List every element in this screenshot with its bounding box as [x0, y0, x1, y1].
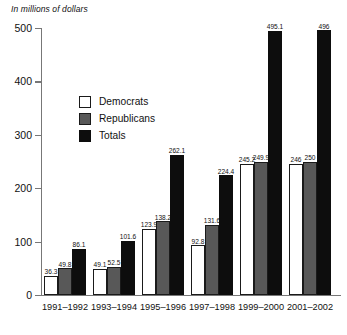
bar-group: 245.2249.9495.1 [240, 28, 282, 295]
y-axis-tick-label: 100 [2, 236, 32, 248]
y-axis-tick-label: 500 [2, 22, 32, 34]
bar-value-label: 131.6 [204, 218, 221, 225]
bar-republicans[interactable]: 49.8 [58, 268, 72, 295]
bar-value-label: 86.1 [73, 242, 86, 249]
y-axis-tick-label: 200 [2, 182, 32, 194]
x-axis-category-label: 1993–1994 [91, 302, 137, 312]
x-axis-category-label: 1991–1992 [42, 302, 88, 312]
bar-totals[interactable]: 224.4 [219, 175, 233, 295]
bar-value-label: 262.1 [169, 148, 186, 155]
y-axis-tick-mark [35, 135, 42, 136]
x-axis-category-label: 1997–1998 [189, 302, 235, 312]
y-axis-tick-label: 300 [2, 129, 32, 141]
bar-democrats[interactable]: 123.9 [142, 229, 156, 295]
bar-value-label: 496 [318, 24, 329, 31]
y-axis-tick-mark [35, 188, 42, 189]
bar-democrats[interactable]: 245.2 [240, 164, 254, 295]
legend-item-totals[interactable]: Totals [79, 127, 155, 144]
bar-value-label: 123.9 [141, 222, 158, 229]
bar-democrats[interactable]: 49.1 [93, 269, 107, 295]
bar-group: 246250496 [289, 28, 331, 295]
legend-item-republicans[interactable]: Republicans [79, 110, 155, 127]
bar-republicans[interactable]: 138.2 [156, 221, 170, 295]
bar-value-label: 250 [304, 155, 315, 162]
y-axis-tick-mark [35, 242, 42, 243]
bar-democrats[interactable]: 36.3 [44, 276, 58, 295]
x-axis-category-label: 1995–1996 [140, 302, 186, 312]
bar-totals[interactable]: 495.1 [268, 31, 282, 295]
y-axis-line [41, 28, 42, 296]
bar-totals[interactable]: 86.1 [72, 249, 86, 295]
bar-totals[interactable]: 262.1 [170, 155, 184, 295]
y-axis-tick-mark [35, 81, 42, 82]
x-axis-category-label: 2001–2002 [287, 302, 333, 312]
bar-value-label: 101.6 [120, 234, 137, 241]
legend-label: Republicans [99, 113, 155, 124]
bar-value-label: 52.5 [108, 260, 121, 267]
y-axis-tick-mark [35, 28, 42, 29]
legend-item-democrats[interactable]: Democrats [79, 93, 155, 110]
legend-swatch-icon [79, 130, 91, 142]
legend-swatch-icon [79, 96, 91, 108]
chart-legend: DemocratsRepublicansTotals [79, 93, 155, 144]
x-axis-category-label: 1999–2000 [238, 302, 284, 312]
bar-value-label: 92.8 [192, 239, 205, 246]
bar-democrats[interactable]: 92.8 [191, 245, 205, 295]
bar-value-label: 138.2 [155, 215, 172, 222]
bar-democrats[interactable]: 246 [289, 164, 303, 295]
bar-republicans[interactable]: 249.9 [254, 162, 268, 295]
bar-value-label: 246 [290, 157, 301, 164]
bar-republicans[interactable]: 131.6 [205, 225, 219, 295]
bar-republicans[interactable]: 250 [303, 162, 317, 296]
bar-republicans[interactable]: 52.5 [107, 267, 121, 295]
x-axis-line [41, 295, 341, 296]
bar-value-label: 249.9 [253, 155, 270, 162]
legend-label: Democrats [99, 96, 148, 107]
y-axis-tick-label: 0 [2, 289, 32, 301]
bar-group: 92.8131.6224.4 [191, 28, 233, 295]
bar-totals[interactable]: 101.6 [121, 241, 135, 295]
bar-group: 123.9138.2262.1 [142, 28, 184, 295]
bar-value-label: 49.8 [59, 262, 72, 269]
legend-swatch-icon [79, 113, 91, 125]
y-axis-tick-label: 400 [2, 75, 32, 87]
bar-totals[interactable]: 496 [317, 30, 331, 295]
bar-group: 36.349.886.1 [44, 28, 86, 295]
bar-value-label: 36.3 [45, 269, 58, 276]
legend-label: Totals [99, 130, 126, 141]
y-axis-tick-mark [35, 295, 42, 296]
y-axis-tick-labels: 0100200300400500 [0, 0, 32, 335]
bar-chart: In millions of dollars 0100200300400500 … [0, 0, 347, 335]
bar-group: 49.152.5101.6 [93, 28, 135, 295]
bar-value-label: 495.1 [267, 24, 284, 31]
bar-value-label: 224.4 [218, 169, 235, 176]
bar-value-label: 49.1 [94, 262, 107, 269]
